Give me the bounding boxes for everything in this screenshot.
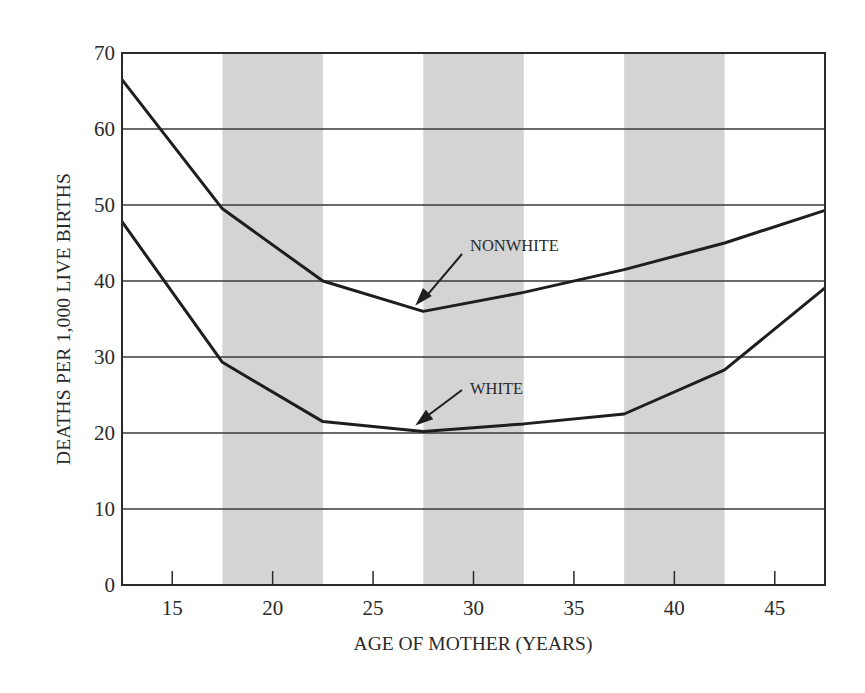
x-tick-label: 35 xyxy=(563,596,584,620)
shaded-band xyxy=(624,53,724,585)
x-axis-title: AGE OF MOTHER (YEARS) xyxy=(354,633,593,655)
x-tick-label: 40 xyxy=(664,596,685,620)
chart: NONWHITEWHITE 15202530354045 01020304050… xyxy=(0,0,865,693)
y-tick-label: 30 xyxy=(94,345,115,369)
x-tick-label: 45 xyxy=(764,596,785,620)
shaded-band xyxy=(222,53,322,585)
y-tick-label: 20 xyxy=(94,421,115,445)
y-tick-label: 10 xyxy=(94,497,115,521)
y-axis-title: DEATHS PER 1,000 LIVE BIRTHS xyxy=(53,173,75,465)
x-tick-label: 20 xyxy=(262,596,283,620)
y-tick-label: 60 xyxy=(94,117,115,141)
shaded-bands xyxy=(222,53,724,585)
y-tick-label: 50 xyxy=(94,193,115,217)
y-tick-label: 70 xyxy=(94,41,115,65)
x-tick-label: 25 xyxy=(363,596,384,620)
y-tick-label: 40 xyxy=(94,269,115,293)
y-axis: 010203040506070 xyxy=(94,41,115,597)
y-tick-label: 0 xyxy=(105,573,116,597)
annotation-label: NONWHITE xyxy=(470,236,559,255)
annotation-label: WHITE xyxy=(470,379,523,398)
shaded-band xyxy=(423,53,523,585)
x-tick-label: 15 xyxy=(162,596,183,620)
x-tick-label: 30 xyxy=(463,596,484,620)
